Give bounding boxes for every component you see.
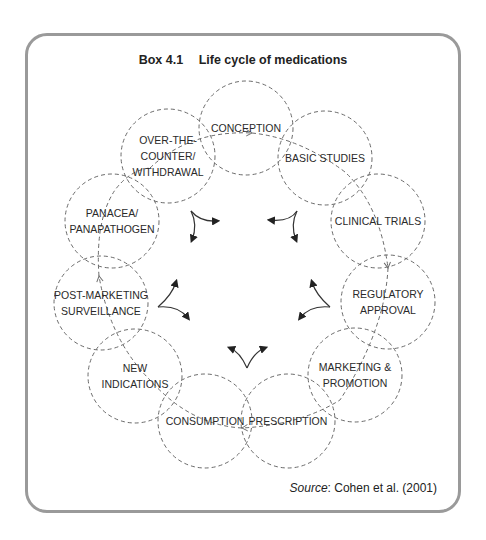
stage-label-clinical-trials: CLINICAL TRIALS — [335, 215, 421, 227]
life-cycle-diagram: CONCEPTIONBASIC STUDIESCLINICAL TRIALSRE… — [0, 0, 486, 540]
source-label: Source — [290, 481, 328, 495]
source-citation: Source: Cohen et al. (2001) — [290, 481, 437, 495]
forked-arrow-top-left — [191, 211, 217, 240]
stage-circle-panacea-panapathogen — [65, 174, 159, 268]
forked-arrow-mid-right — [300, 282, 330, 318]
source-text: : Cohen et al. (2001) — [328, 481, 437, 495]
stage-labels: CONCEPTIONBASIC STUDIESCLINICAL TRIALSRE… — [54, 122, 424, 427]
stage-circle-new-indications — [88, 329, 182, 423]
stage-label-basic-studies: BASIC STUDIES — [285, 152, 365, 164]
forked-arrow-mid-left — [158, 282, 188, 318]
stage-circle-post-marketing-surveillance — [54, 256, 148, 350]
stage-label-panacea-panapathogen: PANACEA/PANAPATHOGEN — [69, 207, 154, 235]
stage-label-consumption: CONSUMPTION — [166, 415, 245, 427]
stage-circles — [54, 81, 435, 468]
central-arrows — [158, 211, 330, 368]
stage-label-over-the-counter-withdrawal: OVER-THE-COUNTER/WITHDRAWAL — [133, 134, 204, 178]
stage-label-post-marketing-surveillance: POST-MARKETINGSURVEILLANCE — [54, 289, 148, 317]
stage-label-conception: CONCEPTION — [211, 122, 281, 134]
stage-label-prescription: PRESCRIPTION — [249, 415, 328, 427]
forked-arrow-top-right — [270, 211, 297, 240]
forked-arrow-bottom — [230, 348, 265, 368]
stage-label-new-indications: NEWINDICATIONS — [102, 362, 169, 390]
stage-label-regulatory-approval: REGULATORYAPPROVAL — [352, 288, 423, 316]
